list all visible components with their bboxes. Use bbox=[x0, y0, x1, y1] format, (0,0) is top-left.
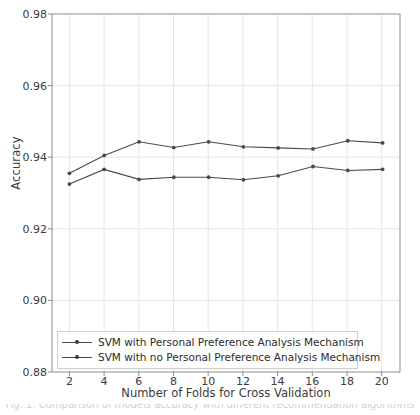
data-point-marker bbox=[68, 171, 72, 175]
data-point-marker bbox=[102, 154, 106, 158]
legend-line-marker-icon bbox=[62, 352, 92, 363]
legend-item: SVM with Personal Preference Analysis Me… bbox=[62, 335, 352, 350]
figure: 0.98 0.96 0.94 0.92 0.90 0.88 Accuracy bbox=[0, 0, 420, 415]
data-point-marker bbox=[137, 140, 141, 144]
legend-item-label: SVM with no Personal Preference Analysis… bbox=[98, 351, 380, 364]
data-series-layer bbox=[68, 139, 385, 186]
data-point-marker bbox=[102, 167, 106, 171]
data-point-marker bbox=[381, 141, 385, 145]
legend: SVM with Personal Preference Analysis Me… bbox=[57, 331, 358, 369]
data-point-marker bbox=[172, 146, 176, 150]
data-point-marker bbox=[346, 169, 350, 173]
data-point-marker bbox=[346, 139, 350, 143]
tick-marks bbox=[48, 14, 382, 376]
data-point-marker bbox=[276, 174, 280, 178]
vertical-gridlines bbox=[69, 14, 381, 372]
data-point-marker bbox=[207, 175, 211, 179]
data-point-marker bbox=[381, 167, 385, 171]
data-point-marker bbox=[172, 175, 176, 179]
figure-caption-text: Fig. 1. Comparison of models accuracy wi… bbox=[0, 404, 420, 410]
data-point-marker bbox=[137, 178, 141, 182]
legend-item: SVM with no Personal Preference Analysis… bbox=[62, 350, 352, 365]
data-point-marker bbox=[207, 140, 211, 144]
data-point-marker bbox=[242, 178, 246, 182]
data-point-marker bbox=[311, 147, 315, 151]
legend-item-label: SVM with Personal Preference Analysis Me… bbox=[98, 336, 364, 349]
data-point-marker bbox=[68, 182, 72, 186]
data-point-marker bbox=[311, 165, 315, 169]
legend-line-marker-icon bbox=[62, 337, 92, 348]
data-series bbox=[68, 165, 385, 186]
series-line bbox=[69, 167, 382, 185]
figure-caption: Fig. 1. Comparison of models accuracy wi… bbox=[0, 404, 420, 415]
data-point-marker bbox=[242, 145, 246, 149]
x-axis-label: Number of Folds for Cross Validation bbox=[52, 386, 400, 400]
data-point-marker bbox=[276, 146, 280, 150]
